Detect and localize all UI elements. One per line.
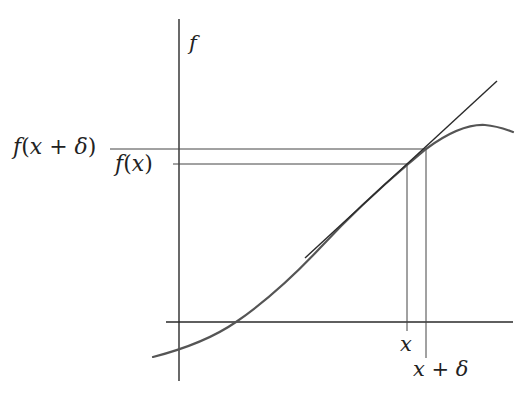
label-f-x-plus-delta: f(x + δ) (13, 136, 96, 158)
diagram-canvas (0, 0, 521, 402)
label-f-x-plus-delta-close: ) (88, 134, 97, 159)
label-f-x-plus-delta-delta: δ (75, 134, 88, 159)
y-axis-label: f (189, 33, 197, 54)
label-x-tick-text: x (400, 332, 412, 356)
label-f-x-plus-delta-plus: + (42, 134, 74, 159)
label-x-plus-delta-plus: + (425, 357, 456, 381)
label-f-x-plus-delta-var: x (30, 134, 42, 159)
label-x-tick: x (400, 334, 412, 355)
label-f-x-fn: f (115, 151, 123, 176)
y-axis-label-text: f (189, 31, 197, 55)
label-f-x-close: ) (144, 151, 153, 176)
label-f-x-var: x (132, 151, 144, 176)
tangent-line (305, 81, 497, 258)
label-f-x-open: ( (123, 151, 132, 176)
label-x-plus-delta-var: x (413, 357, 425, 381)
label-x-plus-delta: x + δ (413, 359, 468, 380)
label-f-x-plus-delta-open: ( (21, 134, 30, 159)
label-f-x-plus-delta-fn: f (13, 134, 21, 159)
label-x-plus-delta-delta: δ (456, 357, 469, 381)
label-f-x: f(x) (115, 153, 153, 175)
